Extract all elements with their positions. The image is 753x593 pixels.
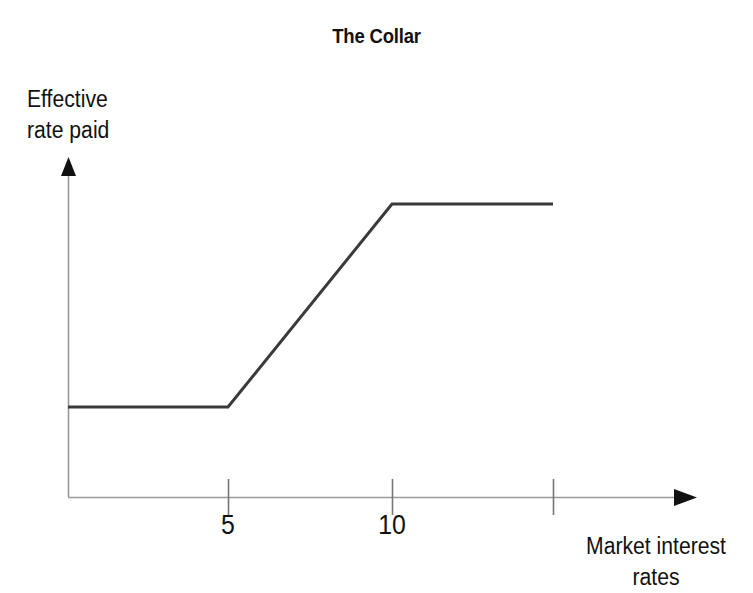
- plot-area: [0, 0, 753, 593]
- arrow-right-icon: [674, 489, 697, 506]
- x-tick-label-5: 5: [191, 510, 265, 541]
- arrow-up-icon: [61, 157, 76, 176]
- x-tick-label-10: 10: [355, 510, 429, 541]
- chart-page: The Collar Effectiverate paid Market int…: [0, 0, 753, 593]
- data-line-effective-rate: [68, 204, 553, 407]
